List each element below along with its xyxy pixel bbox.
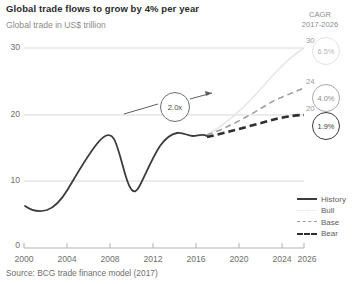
cagr-badge-bear: 1.9% [312, 112, 340, 140]
cagr-badge-bull: 6.5% [312, 37, 340, 65]
x-tick-2020: 2020 [224, 254, 254, 264]
legend-item-base[interactable]: Base [297, 217, 346, 227]
legend-item-history[interactable]: History [297, 194, 346, 204]
endpoint-label-base: 24 [306, 77, 315, 86]
legend-label-bear: Bear [321, 229, 338, 238]
x-tick-2016: 2016 [181, 254, 211, 264]
chart-page: Global trade flows to grow by 4% per yea… [0, 0, 355, 284]
legend-swatch-history-icon [297, 194, 317, 204]
multiplier-badge: 2.0x [160, 92, 190, 122]
series-history-line [25, 133, 207, 211]
y-tick-30: 30 [2, 42, 20, 52]
cagr-badge-base: 4.0% [312, 84, 340, 112]
x-tick-2008: 2008 [95, 254, 125, 264]
legend-item-bear[interactable]: Bear [297, 229, 346, 239]
legend-label-base: Base [321, 218, 339, 227]
y-tick-0: 0 [2, 240, 20, 250]
series-bull-line [207, 48, 304, 135]
x-axis [24, 243, 304, 248]
x-tick-2026: 2026 [292, 254, 322, 264]
chart-plot-area [0, 0, 355, 284]
x-tick-2004: 2004 [52, 254, 82, 264]
legend-label-bull: Bull [321, 206, 334, 215]
chart-legend: History Bull Base Bear [297, 194, 346, 240]
x-tick-2012: 2012 [138, 254, 168, 264]
legend-swatch-bull-icon [297, 206, 317, 216]
source-note: Source: BCG trade finance model (2017) [6, 268, 158, 278]
x-tick-2000: 2000 [9, 254, 39, 264]
y-tick-10: 10 [2, 175, 20, 185]
legend-swatch-bear-icon [297, 229, 317, 239]
legend-label-history: History [321, 195, 346, 204]
y-tick-20: 20 [2, 109, 20, 119]
legend-item-bull[interactable]: Bull [297, 206, 346, 216]
legend-swatch-base-icon [297, 217, 317, 227]
